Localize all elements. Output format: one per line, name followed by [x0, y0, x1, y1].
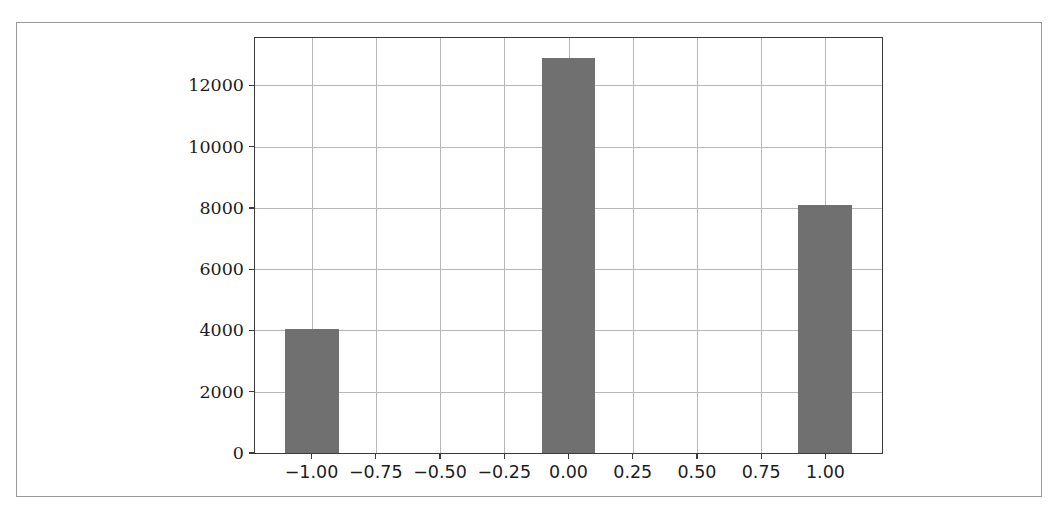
x-axis-tick	[825, 453, 826, 459]
x-axis-tick	[439, 453, 440, 459]
x-axis-tick	[568, 453, 569, 459]
y-axis-tick-label: 12000	[188, 75, 244, 95]
x-axis-tick-label: −0.75	[349, 462, 403, 482]
y-axis-tick	[249, 391, 255, 392]
x-axis-tick	[696, 453, 697, 459]
bar	[798, 205, 852, 453]
y-axis-tick-label: 10000	[188, 137, 244, 157]
x-axis-tick-label: −0.50	[413, 462, 467, 482]
x-axis-tick	[761, 453, 762, 459]
bars-group	[255, 38, 882, 453]
x-axis-tick-label: 0.75	[742, 462, 781, 482]
x-axis-tick-label: 0.00	[549, 462, 588, 482]
x-axis-tick-label: 0.25	[613, 462, 652, 482]
y-axis-tick	[249, 269, 255, 270]
y-axis-tick-label: 8000	[199, 198, 244, 218]
x-axis-tick-label: −1.00	[285, 462, 339, 482]
y-axis-tick	[249, 146, 255, 147]
y-axis-tick	[249, 330, 255, 331]
y-axis-tick	[249, 207, 255, 208]
y-axis-tick-label: 6000	[199, 259, 244, 279]
x-axis-tick	[504, 453, 505, 459]
bar	[542, 58, 596, 453]
x-axis-tick	[375, 453, 376, 459]
bar	[285, 329, 339, 453]
y-axis-tick	[249, 452, 255, 453]
y-axis-tick-label: 0	[233, 443, 244, 463]
x-axis-tick-label: 1.00	[806, 462, 845, 482]
y-axis-tick-label: 4000	[199, 320, 244, 340]
bar-chart: 020004000600080001000012000−1.00−0.75−0.…	[17, 23, 1043, 498]
x-axis-tick-label: 0.50	[677, 462, 716, 482]
x-axis-tick	[632, 453, 633, 459]
y-axis-tick	[249, 85, 255, 86]
figure-frame: 020004000600080001000012000−1.00−0.75−0.…	[16, 22, 1042, 497]
x-axis-tick-label: −0.25	[477, 462, 531, 482]
x-axis-tick	[311, 453, 312, 459]
y-axis-tick-label: 2000	[199, 382, 244, 402]
plot-area: 020004000600080001000012000−1.00−0.75−0.…	[254, 37, 883, 454]
